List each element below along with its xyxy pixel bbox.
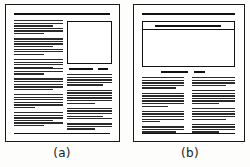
panel-b-content [134, 5, 244, 141]
panel-a-bottom-rule [14, 133, 110, 134]
panel-b-headline-rule [155, 25, 221, 27]
panel-b-right-column [192, 77, 235, 133]
panel-a-top-rule [14, 13, 110, 15]
panel-a-content [6, 5, 119, 141]
panel-a-caption-rule-1 [69, 68, 93, 70]
panel-b-image-box-inner-rule [143, 29, 234, 30]
panel-a-left-column-upper [14, 20, 63, 68]
panel-a-caption-rule-2 [98, 68, 108, 70]
page-layout-panel-b [133, 4, 245, 142]
panel-b-caption-rule-2 [194, 71, 205, 73]
panel-a-left-column-lower [14, 68, 63, 126]
panel-b-left-column [142, 77, 184, 133]
panel-a-image-box [67, 21, 112, 64]
page-layout-panel-a [5, 4, 120, 142]
panel-a-caption: (a) [42, 146, 82, 160]
figure-canvas: (a) [0, 0, 250, 167]
panel-b-caption-rule-1 [161, 71, 188, 73]
panel-b-top-rule [142, 13, 235, 15]
panel-b-bottom-rule [142, 133, 235, 134]
panel-a-right-column [67, 74, 112, 130]
panel-b-image-box [142, 21, 235, 67]
panel-b-caption: (b) [170, 146, 210, 160]
